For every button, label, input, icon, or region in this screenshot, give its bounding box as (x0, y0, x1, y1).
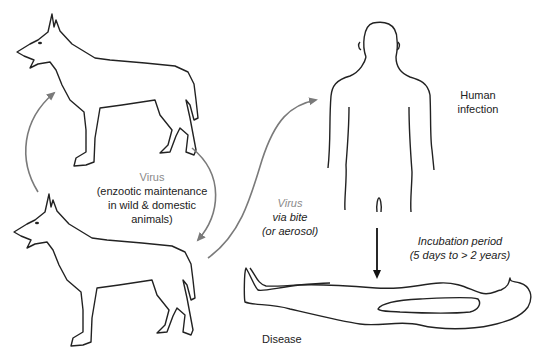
enzootic-label: Virus (enzootic maintenance in wild & do… (92, 170, 212, 226)
arrow-bottom-to-top-dog (26, 93, 54, 192)
incubation-line-2: (5 days to > 2 years) (400, 248, 520, 262)
transmission-line-2: (or aerosol) (255, 224, 325, 238)
transmission-label: Virus via bite (or aerosol) (255, 196, 325, 238)
enzootic-line-1: (enzootic maintenance (92, 184, 212, 198)
virus-label: Virus (92, 170, 212, 184)
enzootic-line-3: animals) (92, 212, 212, 226)
human-infection-line-2: infection (448, 102, 508, 116)
incubation-label: Incubation period (5 days to > 2 years) (400, 234, 520, 262)
enzootic-line-2: in wild & domestic (92, 198, 212, 212)
rabies-cycle-diagram: Virus (enzootic maintenance in wild & do… (0, 0, 544, 360)
disease-label: Disease (262, 332, 302, 346)
human-standing-icon (328, 22, 434, 212)
incubation-line-1: Incubation period (400, 234, 520, 248)
transmission-line-1: via bite (255, 210, 325, 224)
dog-top-icon (17, 14, 198, 166)
human-infection-label: Human infection (448, 88, 508, 116)
human-infection-line-1: Human (448, 88, 508, 102)
human-lying-icon (244, 268, 530, 329)
virus-label-transmission: Virus (255, 196, 325, 210)
